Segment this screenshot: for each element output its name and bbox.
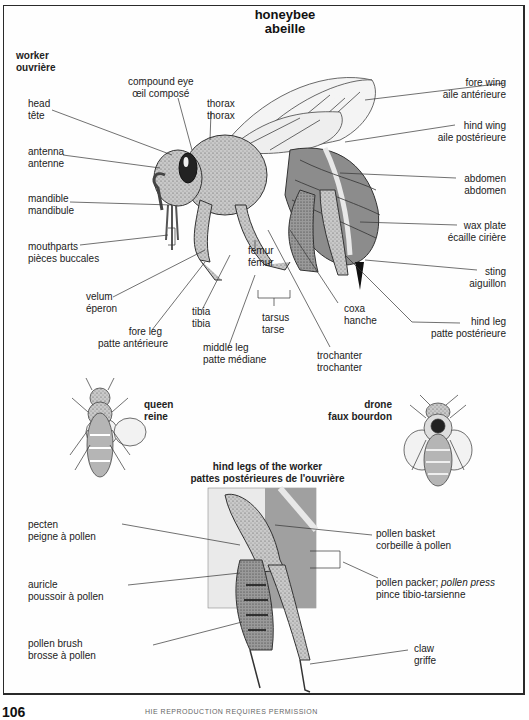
hind-leg-en: hind leg (410, 316, 506, 328)
compound-eye-fr: œil composé (128, 88, 194, 100)
label-thorax: thorax thorax (207, 98, 235, 121)
pecten-fr: peigne à pollen (28, 531, 96, 543)
velum-en: velum (86, 291, 117, 303)
label-antenna: antenna antenne (28, 146, 64, 169)
tarsus-en: tarsus (262, 312, 289, 324)
pollen-packer-fr: pince tibio-tarsienne (376, 589, 495, 601)
label-pollen-basket: pollen basket corbeille à pollen (376, 528, 451, 551)
mouthparts-fr: pièces buccales (28, 253, 99, 265)
label-pollen-brush: pollen brush brosse à pollen (28, 638, 96, 661)
fore-leg-en: fore leg (98, 326, 162, 338)
label-pecten: pecten peigne à pollen (28, 519, 96, 542)
coxa-fr: hanche (344, 315, 377, 327)
label-mouthparts: mouthparts pièces buccales (28, 241, 99, 264)
drone-bee (404, 395, 472, 486)
pollen-basket-fr: corbeille à pollen (376, 540, 451, 552)
label-wax-plate: wax plate écaille cirière (410, 220, 506, 243)
sting-fr: aiguillon (410, 278, 506, 290)
diagram-title: honeybee abeille (230, 8, 340, 36)
label-middle-leg: middle leg patte médiane (203, 342, 266, 365)
label-trochanter: trochanter trochanter (317, 350, 362, 373)
abdomen-en: abdomen (410, 173, 506, 185)
claw-en: claw (414, 643, 436, 655)
mandible-fr: mandibule (28, 205, 74, 217)
queen-fr: reine (144, 411, 173, 423)
pollen-brush-fr: brosse à pollen (28, 650, 96, 662)
thorax-en: thorax (207, 98, 235, 110)
compound-eye-en: compound eye (128, 76, 194, 88)
drone-fr: faux bourdon (320, 411, 392, 423)
wax-plate-en: wax plate (410, 220, 506, 232)
label-hind-wing: hind wing aile postérieure (410, 120, 506, 143)
page-number: 106 (2, 704, 25, 720)
label-tarsus: tarsus tarse (262, 312, 289, 335)
section-worker: worker ouvrière (16, 50, 55, 73)
label-sting: sting aiguillon (410, 266, 506, 289)
tibia-fr: tibia (192, 318, 210, 330)
hind-wing-en: hind wing (410, 120, 506, 132)
pollen-packer-en: pollen packer; (376, 577, 438, 588)
label-compound-eye: compound eye œil composé (128, 76, 194, 99)
worker-fr: ouvrière (16, 62, 55, 74)
section-hind-legs: hind legs of the worker pattes postérieu… (180, 461, 355, 484)
hind-wing-fr: aile postérieure (410, 132, 506, 144)
thorax-fr: thorax (207, 110, 235, 122)
trochanter-en: trochanter (317, 350, 362, 362)
hind-leg-fr: patte postérieure (410, 328, 506, 340)
label-coxa: coxa hanche (344, 303, 377, 326)
middle-leg-en: middle leg (203, 342, 266, 354)
antenna-en: antenna (28, 146, 64, 158)
label-velum: velum éperon (86, 291, 117, 314)
footer-text: HIE REPRODUCTION REQUIRES PERMISSION (145, 708, 318, 715)
label-fore-leg: fore leg patte antérieure (98, 326, 162, 349)
abdomen-fr: abdomen (410, 185, 506, 197)
hind-legs-fr: pattes postérieures de l'ouvrière (180, 473, 355, 485)
label-tibia: tibia tibia (192, 306, 210, 329)
label-auricle: auricle poussoir à pollen (28, 579, 104, 602)
trochanter-fr: trochanter (317, 362, 362, 374)
middle-leg-fr: patte médiane (203, 354, 266, 366)
pollen-basket-en: pollen basket (376, 528, 451, 540)
fore-wing-en: fore wing (410, 77, 506, 89)
velum-fr: éperon (86, 303, 117, 315)
label-hind-leg: hind leg patte postérieure (410, 316, 506, 339)
mouthparts-en: mouthparts (28, 241, 99, 253)
mandible-en: mandible (28, 193, 74, 205)
hind-leg-detail (208, 488, 316, 692)
wax-plate-fr: écaille cirière (410, 232, 506, 244)
pollen-brush-en: pollen brush (28, 638, 96, 650)
label-pollen-packer: pollen packer; pollen press pince tibio-… (376, 577, 495, 600)
pollen-packer-en-line: pollen packer; pollen press (376, 577, 495, 589)
pecten-en: pecten (28, 519, 96, 531)
section-queen: queen reine (144, 399, 173, 422)
worker-en: worker (16, 50, 55, 62)
label-claw: claw griffe (414, 643, 436, 666)
label-femur: femur fémur (248, 245, 274, 268)
head-en: head (28, 98, 50, 110)
queen-en: queen (144, 399, 173, 411)
claw-fr: griffe (414, 655, 436, 667)
auricle-fr: poussoir à pollen (28, 591, 104, 603)
drone-en: drone (320, 399, 392, 411)
pollen-press-en: pollen press (441, 577, 495, 588)
queen-bee (70, 378, 146, 477)
tibia-en: tibia (192, 306, 210, 318)
fore-leg-fr: patte antérieure (98, 338, 162, 350)
label-mandible: mandible mandibule (28, 193, 74, 216)
femur-en: femur (248, 245, 274, 257)
auricle-en: auricle (28, 579, 104, 591)
head-fr: tête (28, 110, 50, 122)
femur-fr: fémur (248, 257, 274, 269)
section-drone: drone faux bourdon (320, 399, 392, 422)
title-en: honeybee (230, 8, 340, 22)
fore-wing-fr: aile antérieure (410, 89, 506, 101)
sting-en: sting (410, 266, 506, 278)
label-head: head tête (28, 98, 50, 121)
label-fore-wing: fore wing aile antérieure (410, 77, 506, 100)
label-abdomen: abdomen abdomen (410, 173, 506, 196)
antenna-fr: antenne (28, 158, 64, 170)
coxa-en: coxa (344, 303, 377, 315)
title-fr: abeille (230, 22, 340, 36)
hind-legs-en: hind legs of the worker (180, 461, 355, 473)
tarsus-fr: tarse (262, 324, 289, 336)
